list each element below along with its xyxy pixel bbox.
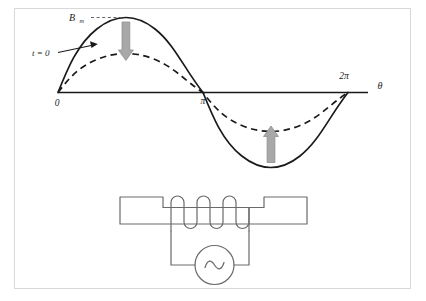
coil-winding	[171, 196, 249, 231]
figure-root: B m t = 0 0 π 2π θ	[0, 0, 426, 301]
figure-border	[15, 9, 411, 289]
magnetic-core	[120, 197, 307, 224]
initial-time-label: t = 0	[32, 48, 50, 58]
xtick-label-pi: π	[201, 96, 206, 106]
xtick-label-zero: 0	[55, 98, 60, 108]
ac-source-sine-icon	[205, 261, 224, 269]
ac-source	[195, 246, 234, 285]
physics-figure: B m t = 0 0 π 2π θ	[0, 0, 426, 301]
waveform-plot: B m t = 0 0 π 2π θ	[32, 12, 383, 168]
xaxis-label-theta: θ	[378, 80, 383, 91]
circuit-diagram	[120, 196, 307, 285]
xtick-label-two-pi: 2π	[339, 71, 349, 81]
peak-amplitude-label: B	[69, 12, 75, 23]
coil-lead-left	[171, 231, 195, 265]
peak-amplitude-subscript: m	[80, 17, 85, 24]
coil-lead-right	[234, 231, 249, 265]
decay-arrow-down-icon	[118, 22, 133, 61]
